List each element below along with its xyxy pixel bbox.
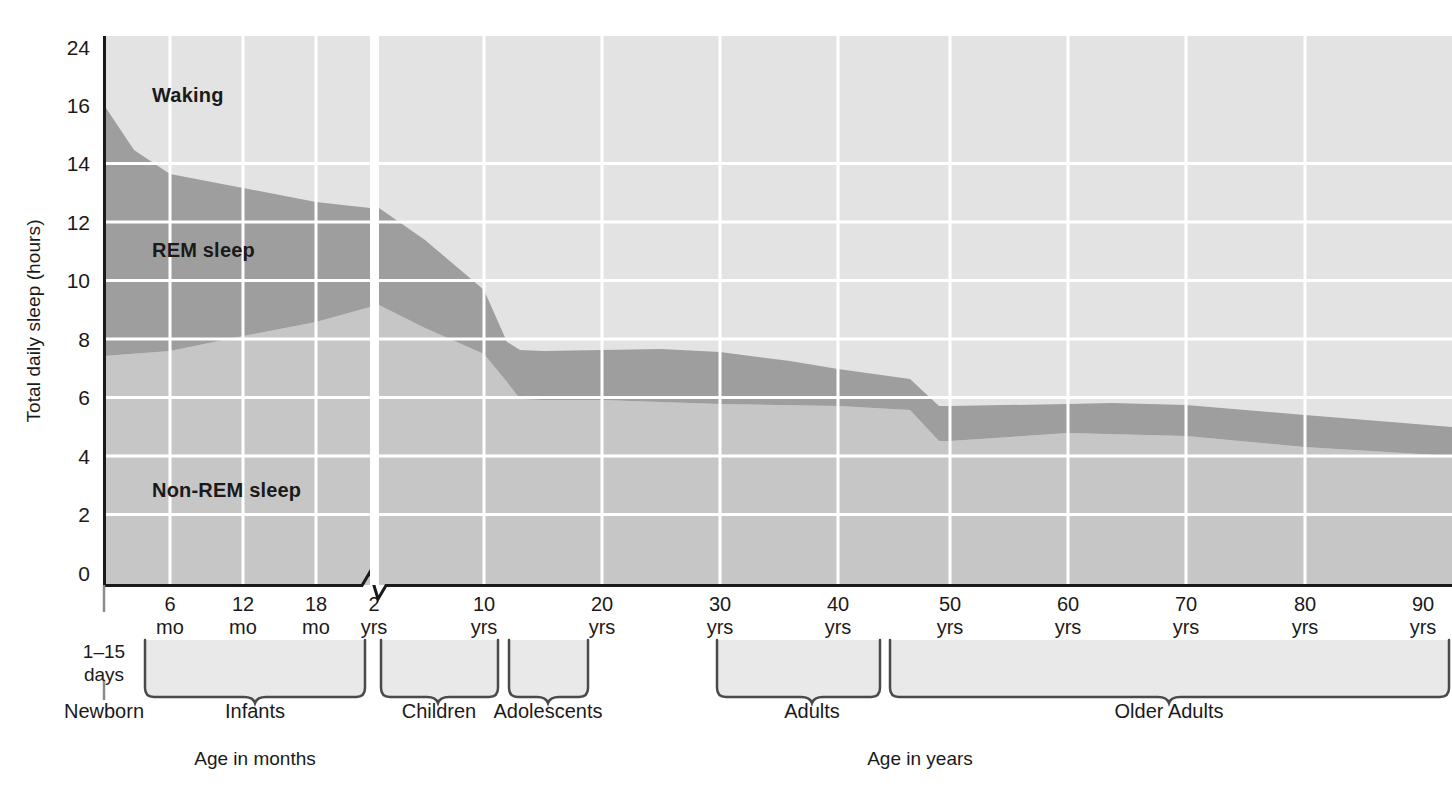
group-label-adults: Adults [742, 700, 882, 722]
y-tick-16: 16 [44, 95, 90, 116]
group-label-adolescents: Adolescents [473, 700, 623, 722]
x-tick-30-yrs: 30 yrs [685, 593, 755, 639]
bracket-older-adults [890, 640, 1449, 703]
x-tick-20-yrs: 20 yrs [567, 593, 637, 639]
x-tick-6-mo: 6 mo [135, 593, 205, 639]
y-tick-12: 12 [44, 212, 90, 233]
x-tick-6-mo-number: 6 [135, 593, 205, 616]
group-label-newborn: Newborn [34, 700, 174, 722]
x-tick-90-yrs: 90 yrs [1388, 593, 1452, 639]
y-tick-4: 4 [44, 446, 90, 467]
x-tick-12-mo-unit: mo [208, 616, 278, 639]
y-tick-24: 24 [44, 37, 90, 58]
x-tick-6-mo-unit: mo [135, 616, 205, 639]
x-tick-40-yrs: 40 yrs [803, 593, 873, 639]
x-tick-10-yrs: 10 yrs [449, 593, 519, 639]
x-tick-80-yrs-number: 80 [1270, 593, 1340, 616]
group-label-infants: Infants [185, 700, 325, 722]
x-tick-80-yrs: 80 yrs [1270, 593, 1340, 639]
x-tick-30-yrs-unit: yrs [685, 616, 755, 639]
caption-age-in-months: Age in months [185, 748, 325, 770]
x-tick-60-yrs: 60 yrs [1033, 593, 1103, 639]
x-tick-12-mo-number: 12 [208, 593, 278, 616]
x-tick-70-yrs: 70 yrs [1151, 593, 1221, 639]
x-tick-40-yrs-number: 40 [803, 593, 873, 616]
x-tick-30-yrs-number: 30 [685, 593, 755, 616]
x-tick-70-yrs-number: 70 [1151, 593, 1221, 616]
y-tick-6: 6 [44, 387, 90, 408]
bracket-infants [145, 640, 365, 703]
x-tick-20-yrs-unit: yrs [567, 616, 637, 639]
x-tick-90-yrs-number: 90 [1388, 593, 1452, 616]
x-tick-50-yrs: 50 yrs [915, 593, 985, 639]
x-tick-40-yrs-unit: yrs [803, 616, 873, 639]
x-tick-2-yrs-unit: yrs [339, 616, 409, 639]
newborn-age-note-line2: days [84, 664, 124, 685]
y-tick-10: 10 [44, 270, 90, 291]
plot-panel-left [104, 36, 370, 585]
plot-panel-right [379, 36, 1452, 585]
x-tick-2-yrs-number: 2 [339, 593, 409, 616]
newborn-age-note-line1: 1–15 [83, 641, 125, 662]
newborn-age-note: 1–15 days [56, 640, 152, 686]
x-tick-10-yrs-number: 10 [449, 593, 519, 616]
x-tick-80-yrs-unit: yrs [1270, 616, 1340, 639]
bracket-adults [717, 640, 880, 703]
axis-break-gap [370, 36, 379, 585]
sleep-across-lifespan-chart: Total daily sleep (hours) 24 16 14 12 10… [0, 0, 1452, 791]
caption-age-in-years: Age in years [845, 748, 995, 770]
x-tick-10-yrs-unit: yrs [449, 616, 519, 639]
y-axis-label: Total daily sleep (hours) [23, 201, 45, 441]
y-tick-0: 0 [44, 563, 90, 584]
y-tick-14: 14 [44, 153, 90, 174]
x-tick-70-yrs-unit: yrs [1151, 616, 1221, 639]
bracket-adolescents [509, 640, 588, 703]
bracket-children [381, 640, 498, 703]
chart-figure [0, 0, 1452, 791]
y-tick-8: 8 [44, 329, 90, 350]
x-tick-2-yrs: 2 yrs [339, 593, 409, 639]
x-tick-90-yrs-unit: yrs [1388, 616, 1452, 639]
x-tick-12-mo: 12 mo [208, 593, 278, 639]
band-label-non-rem: Non-REM sleep [152, 479, 301, 502]
x-tick-60-yrs-unit: yrs [1033, 616, 1103, 639]
x-tick-50-yrs-number: 50 [915, 593, 985, 616]
group-brackets [145, 640, 1449, 703]
x-tick-20-yrs-number: 20 [567, 593, 637, 616]
x-tick-50-yrs-unit: yrs [915, 616, 985, 639]
band-label-rem: REM sleep [152, 239, 255, 262]
band-label-waking: Waking [152, 84, 224, 107]
y-tick-2: 2 [44, 504, 90, 525]
group-label-older-adults: Older Adults [1094, 700, 1244, 722]
x-tick-60-yrs-number: 60 [1033, 593, 1103, 616]
